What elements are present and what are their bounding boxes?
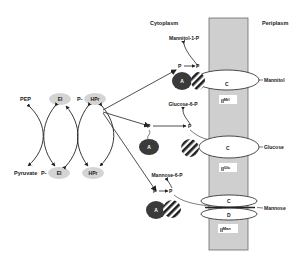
mannitol-domain-c-label: C (225, 81, 229, 87)
hpr-bottom-label: HPr (89, 170, 98, 176)
mannose-domain-d-label: D (227, 212, 231, 218)
ei-bottom: EI (48, 167, 70, 179)
ei-top: EI (49, 93, 71, 105)
phosphotransfer-arrows (28, 106, 114, 166)
p-prefix-top: P- (77, 96, 83, 102)
mannose-6-p-label: Mannose-6-P (151, 172, 183, 178)
hpr-top-label: HPr (91, 96, 100, 102)
glucose-6-p-label: Glucose-6-P (168, 101, 198, 107)
mannitol-p-left: P (178, 63, 182, 69)
mannitol-1-p-label: Mannitol-1-P (169, 35, 200, 41)
ei-top-label: EI (58, 96, 63, 102)
hpr-bottom: HPr (82, 167, 104, 179)
glucose-label: Glucose (264, 144, 284, 150)
glucose-domain-a-label: A (147, 144, 151, 150)
enzyme-ii-man-label: IIMan (218, 224, 238, 233)
mannitol-label: Mannitol (264, 77, 285, 83)
periplasm-label: Periplasm (262, 20, 288, 26)
mannose-p-right: P (169, 188, 173, 194)
pts-diagram: Cytoplasm Periplasm PEP EI P- HPr Pyruva… (0, 0, 301, 264)
glucose-p-left: P (147, 123, 151, 129)
mannose-label: Mannose (264, 205, 286, 211)
mannitol-p-right: P (196, 63, 200, 69)
pep-label: PEP (20, 96, 31, 102)
hpr-top: HPr (84, 93, 106, 105)
glucose-domain-c-label: C (226, 145, 230, 151)
mannose-domain-a-label: A (154, 207, 158, 213)
mannitol-domain-b (191, 72, 205, 90)
glucose-domain-b (181, 139, 199, 157)
enzyme-ii-glc-label: IIGlc (219, 163, 237, 172)
glucose-p-right: P (188, 123, 192, 129)
enzyme-ii-mtl-label: IIMtl (219, 95, 237, 104)
ei-bottom-label: EI (57, 170, 62, 176)
pyruvate-label: Pyruvate (14, 170, 37, 176)
cytoplasm-label: Cytoplasm (150, 20, 178, 26)
mannose-domain-c-label: C (227, 198, 231, 204)
mannose-p-left: P (153, 188, 157, 194)
p-prefix-bottom: P- (41, 170, 47, 176)
mannitol-domain-a-label: A (180, 78, 184, 84)
mannose-domain-b (163, 200, 181, 218)
